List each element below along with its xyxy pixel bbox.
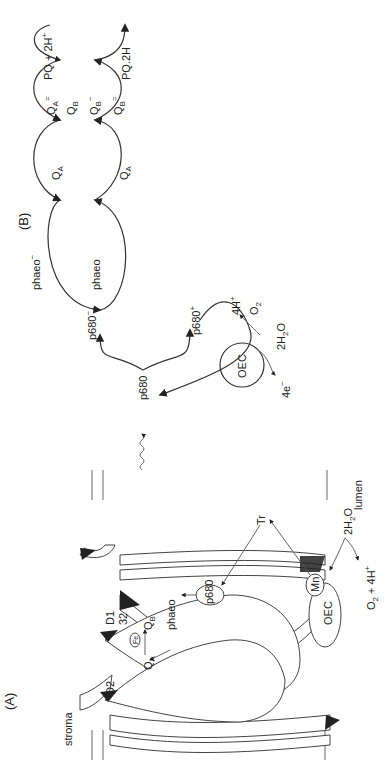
panel-b: (B) p680 p680− p680+ OEC 4e− 2H2O 4H+ O2…: [16, 25, 292, 470]
p680-plus-label: p680+: [188, 306, 202, 335]
water-label: 2H2O: [342, 507, 357, 535]
d1-label: D1: [104, 611, 116, 625]
stroma-label: stroma: [62, 712, 74, 747]
qb-label: QB: [65, 101, 80, 115]
light-arrow-icon: [140, 434, 144, 470]
o2-protons-label: O2 + 4H+: [363, 565, 380, 610]
qa-label: QA: [50, 165, 65, 180]
qb-minus-label: QB−: [86, 96, 103, 115]
oec-label: OEC: [322, 601, 334, 625]
qa-2minus-label: QA=: [43, 96, 60, 115]
water-label: 2H2O: [275, 322, 290, 350]
oec-label: OEC: [236, 354, 248, 378]
panel-a-label: (A): [2, 693, 17, 710]
lumen-label: lumen: [352, 480, 364, 510]
qa-minus-label: QA−: [116, 161, 133, 180]
photosystem-ii-figure: (A): [0, 0, 388, 770]
pq-input-label: PQ + 2H+: [40, 33, 54, 81]
panel-b-label: (B): [16, 213, 31, 230]
tr-label: Tr: [255, 515, 267, 525]
o2-label: O2: [248, 301, 263, 315]
p680-label: p680: [203, 580, 215, 604]
panel-a: (A): [2, 470, 380, 760]
qb-2minus-label: QB=: [110, 96, 127, 115]
mn-label: Mn: [309, 577, 321, 592]
four-h-label: 4H+: [228, 296, 242, 315]
phaeo-minus-label: phaeo−: [28, 254, 42, 290]
p680-label: p680: [137, 376, 149, 400]
phaeo-label: phaeo: [90, 259, 102, 290]
pq-output-label: PQ.2H: [120, 47, 132, 80]
p680-minus-label: p680−: [84, 311, 98, 340]
d1-sub-label: 32: [117, 613, 129, 625]
phaeo-label: phaeo: [165, 599, 177, 630]
d2-label: D2: [104, 681, 116, 695]
fe-label: Fe: [132, 636, 139, 644]
four-e-label: 4e−: [278, 381, 292, 398]
